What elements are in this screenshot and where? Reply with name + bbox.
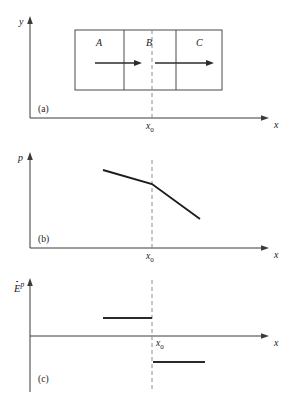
panel-c-y-axis-base: E — [14, 284, 20, 295]
panel-b-x-axis-label: x — [274, 250, 278, 260]
panel-a-label: (a) — [38, 105, 49, 115]
panel-b-y-axis-label: p — [18, 153, 23, 163]
panel-a-x-axis-label: x — [274, 120, 278, 130]
panel-c-x0-sub: 0 — [160, 343, 164, 351]
figure-canvas — [0, 0, 296, 407]
panel-a-x0-label: x0 — [146, 122, 154, 134]
panel-a-x0-sub: 0 — [150, 126, 154, 134]
panel-c-y-axis-label: Ep — [14, 281, 24, 294]
region-label-a: A — [96, 38, 102, 48]
panel-b-x0-sub: 0 — [150, 256, 154, 264]
region-label-b: B — [146, 38, 152, 48]
arrow-region-a — [95, 60, 142, 66]
panel-a-y-axis-arrowhead — [27, 16, 33, 24]
panel-b-x0-label: x0 — [146, 252, 154, 264]
arrow-region-bc — [155, 60, 214, 66]
panel-b-y-axis-arrowhead — [27, 152, 33, 160]
region-label-c: C — [196, 38, 203, 48]
panel-b-group — [27, 152, 269, 251]
panel-c-x0-label: x0 — [156, 339, 164, 351]
figure-root: y x A B C (a) x0 p x (b) x0 Ep x (c) x0 — [0, 0, 296, 407]
panel-c-group — [27, 278, 269, 392]
panel-c-y-axis-arrowhead — [27, 278, 33, 286]
panel-c-x-axis-arrowhead — [261, 333, 269, 339]
panel-c-x-axis-label: x — [274, 338, 278, 348]
panel-a-group — [27, 16, 269, 121]
panel-a-x-axis-arrowhead — [261, 115, 269, 121]
panel-c-y-axis-superscript: p — [20, 280, 24, 289]
panel-b-x-axis-arrowhead — [261, 245, 269, 251]
panel-a-y-axis-label: y — [19, 17, 23, 27]
panel-c-label: (c) — [38, 375, 49, 385]
panel-b-label: (b) — [38, 235, 49, 245]
